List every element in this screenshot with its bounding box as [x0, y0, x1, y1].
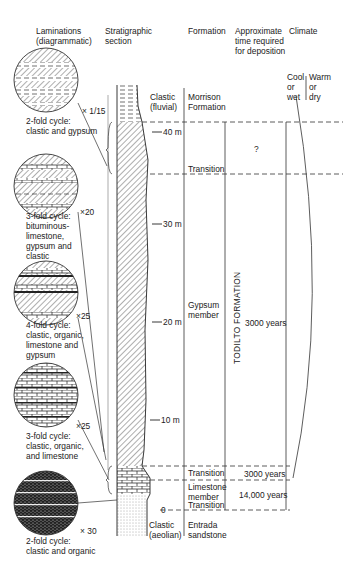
lamination-caption-2: 3-fold cycle: bituminous- limestone, gyp… [26, 211, 72, 261]
formation-transition-lower: Transition [188, 500, 224, 510]
formation-transition-mid: Transition [188, 468, 224, 478]
formation-entrada: Entrada sandstone [188, 520, 227, 540]
lamination-caption-3: 4-fold cycle: clastic, organic, limeston… [26, 320, 84, 360]
formation-morrison: Morrison Formation [188, 92, 226, 112]
time-gypsum: 3000 years [245, 318, 286, 328]
depth-40: 40 m [163, 127, 182, 137]
climate-warm: Warm or dry [309, 72, 331, 102]
time-transition: 3000 years [244, 469, 285, 479]
climate-cool: Cool or wet [287, 72, 304, 102]
lithology-fluvial: Clastic (fluvial) [150, 92, 177, 112]
lamination-scale-5: × 30 [80, 526, 97, 536]
lamination-scale-4: ×25 [76, 421, 90, 431]
lamination-caption-5: 2-fold cycle: clastic and organic [26, 536, 95, 556]
formation-transition-upper: Transition [188, 164, 224, 174]
header-formation: Formation [188, 26, 226, 36]
stratigraphic-column [108, 85, 150, 536]
lamination-scale-2: ×20 [80, 207, 94, 217]
header-climate: Climate [289, 26, 317, 36]
depth-20: 20 m [163, 317, 182, 327]
time-limestone: 14,000 years [239, 490, 287, 500]
depth-30: 30 m [163, 219, 182, 229]
lamination-caption-1: 2-fold cycle: clastic and gypsum [26, 116, 97, 136]
header-laminations: Laminations (diagrammatic) [36, 26, 92, 46]
lamination-caption-4: 3-fold cycle: clastic, organic, and lime… [26, 431, 84, 461]
lamination-scale-1: × 1/15 [82, 106, 106, 116]
header-time: Approximate time required for deposition [235, 26, 285, 56]
formation-gypsum: Gypsum member [188, 300, 219, 320]
depth-0: 0 [161, 505, 166, 515]
header-section: Stratigraphic section [105, 26, 152, 46]
formation-todilto: TODILTO FORMATION [232, 272, 242, 364]
depth-10: 10 m [161, 415, 180, 425]
time-upper: ? [254, 144, 259, 154]
formation-limestone: Limestone member [188, 482, 227, 502]
lithology-aeolian: Clastic (aeolian) [149, 520, 182, 540]
